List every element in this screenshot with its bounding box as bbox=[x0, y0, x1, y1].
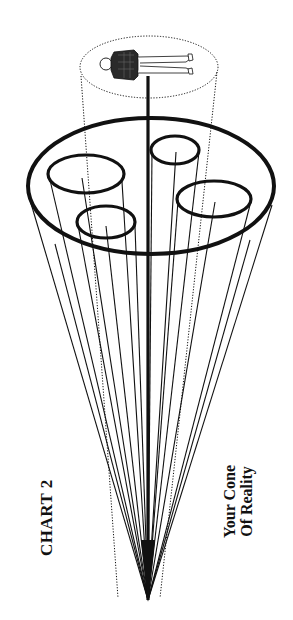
chart-title: CHART 2 bbox=[38, 479, 55, 556]
inner-ellipse-lower-right bbox=[177, 181, 251, 217]
person-feet bbox=[188, 54, 193, 74]
cone-caption-line-2: Of Reality bbox=[238, 465, 255, 538]
person-head bbox=[100, 58, 112, 70]
cone-caption: Your Cone Of Reality bbox=[221, 465, 255, 538]
inner-ellipse-upper-left bbox=[48, 155, 124, 193]
person-torso bbox=[111, 50, 138, 80]
person-legs bbox=[138, 56, 191, 73]
cone-caption-line-1: Your Cone bbox=[221, 465, 238, 538]
person-lying-figure bbox=[100, 50, 193, 80]
inner-ellipse-lower-left bbox=[77, 206, 135, 238]
